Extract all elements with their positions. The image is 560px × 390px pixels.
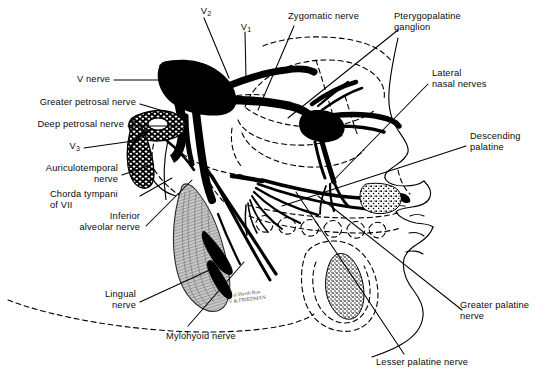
label-v-nerve: V nerve [0,74,110,85]
label-inferior-alveolar-nerve: Inferior alveolar nerve [0,211,140,234]
label-lesser-palatine-nerve: Lesser palatine nerve [376,357,506,368]
anatomy-figure: V2 V1 V nerve Greater petrosal nerve Dee… [0,0,560,390]
superior-alveolar-nerve-fan [232,176,384,235]
leader-pterygopalatine [288,30,398,118]
label-v2: V2 [196,6,216,19]
tongue-texture [326,253,364,319]
leader-v1 [245,32,246,78]
leader-lesser-palatine [296,192,404,354]
label-zygomatic-nerve: Zygomatic nerve [288,11,398,22]
maxillary-bone-texture [360,183,401,213]
leader-lateral-nasal [330,84,428,184]
label-auriculotemporal-nerve: Auriculotemporal nerve [0,163,118,186]
label-v1: V1 [236,22,256,35]
label-lingual-nerve: Lingual nerve [0,289,136,312]
label-v3: V3 [0,141,80,154]
label-greater-palatine-nerve: Greater palatine nerve [460,300,560,323]
label-mylohyoid-nerve: Mylohyoid nerve [166,331,296,342]
label-pterygopalatine-ganglion: Pterygopalatine ganglion [394,11,490,34]
label-chorda-tympani-of-vii: Chorda tympani of VII [50,189,166,212]
label-deep-petrosal-nerve: Deep petrosal nerve [0,119,124,130]
label-greater-petrosal-nerve: Greater petrosal nerve [0,97,136,108]
label-descending-palatine: Descending palatine [470,131,558,154]
label-lateral-nasal-nerves: Lateral nasal nerves [432,68,528,91]
